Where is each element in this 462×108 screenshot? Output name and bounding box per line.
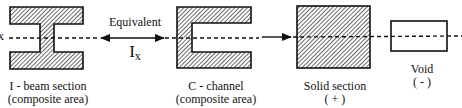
axis-label: x (0, 30, 6, 43)
c-channel-caption-line2: (composite area) (168, 93, 264, 106)
c-channel-caption: C - channel (composite area) (168, 80, 264, 106)
section-equivalence-diagram: x Equivalent Ix I - beam section (compos… (0, 0, 462, 108)
moment-of-inertia-label: Ix (120, 44, 150, 64)
moment-subscript: x (135, 49, 141, 63)
void-caption-line2: ( - ) (394, 76, 450, 89)
i-beam-caption: I - beam section (composite area) (0, 80, 96, 106)
void-caption: Void ( - ) (394, 63, 450, 89)
solid-section-caption-line2: ( + ) (290, 93, 380, 106)
solid-section-caption: Solid section ( + ) (290, 80, 380, 106)
equivalent-label: Equivalent (105, 16, 165, 29)
i-beam-caption-line2: (composite area) (0, 93, 96, 106)
